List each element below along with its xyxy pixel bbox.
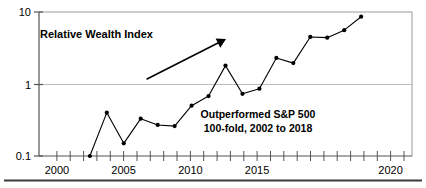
- data-point: [105, 111, 109, 115]
- data-point: [88, 154, 92, 158]
- x-axis-label-2020: 2020: [378, 164, 402, 176]
- x-axis-label-2010: 2010: [178, 164, 202, 176]
- series-label-annotation: Relative Wealth Index: [40, 28, 154, 40]
- data-point: [240, 92, 244, 96]
- y-axis-label-1: 1: [25, 79, 31, 91]
- performance-note-line-2: 100-fold, 2002 to 2018: [204, 122, 313, 134]
- data-point: [173, 124, 177, 128]
- data-point: [156, 123, 160, 127]
- x-axis-label-2015: 2015: [245, 164, 269, 176]
- x-axis-label-2005: 2005: [111, 164, 135, 176]
- data-point: [257, 87, 261, 91]
- data-point: [223, 64, 227, 68]
- data-point: [206, 94, 210, 98]
- data-point: [139, 117, 143, 121]
- relative-wealth-index-log-chart: 10 1 0.1: [0, 0, 426, 188]
- data-point: [359, 15, 363, 19]
- data-point: [342, 28, 346, 32]
- data-point: [189, 104, 193, 108]
- data-point: [308, 35, 312, 39]
- data-point: [274, 56, 278, 60]
- y-axis-label-0.1: 0.1: [16, 150, 31, 162]
- performance-note-line-1: Outperformed S&P 500: [201, 108, 316, 120]
- y-axis-label-10: 10: [19, 6, 31, 18]
- data-point: [122, 141, 126, 145]
- data-point: [325, 36, 329, 40]
- x-axis-label-2000: 2000: [45, 164, 69, 176]
- chart-figure: 10 1 0.1: [0, 0, 426, 188]
- data-point: [291, 61, 295, 65]
